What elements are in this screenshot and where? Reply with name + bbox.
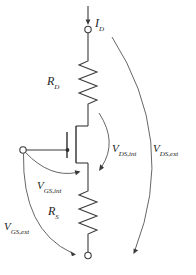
vds-external-symbol: V: [153, 142, 160, 154]
vgs-internal-arc: [26, 153, 81, 176]
vgs-internal-symbol: V: [37, 179, 44, 191]
gate-terminal: [20, 147, 26, 153]
drain-current-arrow: [86, 6, 91, 25]
vgs-internal-label: VGS,int: [37, 176, 61, 195]
vds-external-subscript: DS,ext: [160, 150, 178, 158]
vds-internal-label: VDS,int: [112, 139, 136, 158]
source-terminal: [85, 252, 91, 258]
drain-current-subscript: D: [99, 25, 104, 33]
drain-resistor-subscript: D: [54, 83, 59, 91]
vds-internal-arc: [99, 113, 109, 171]
vgs-internal-subscript: GS,int: [44, 187, 62, 195]
vgs-external-subscript: GS,ext: [11, 228, 29, 236]
source-resistor-subscript: S: [55, 213, 59, 221]
mosfet-symbol: [26, 126, 88, 163]
vgs-external-label: VGS,ext: [4, 217, 29, 236]
circuit-diagram-canvas: ID RD RS VDS,int VDS,ext VGS,int VGS,ext: [0, 0, 196, 275]
vds-external-label: VDS,ext: [153, 139, 178, 158]
vgs-external-symbol: V: [4, 220, 11, 232]
drain-terminal: [85, 26, 91, 32]
drain-resistor-label: RD: [47, 72, 59, 91]
schematic-svg: [0, 0, 196, 275]
vds-internal-symbol: V: [112, 142, 119, 154]
source-resistor-label: RS: [48, 202, 59, 221]
drain-resistor-zigzag: [79, 57, 97, 112]
drain-current-label: ID: [95, 14, 104, 33]
source-resistor-zigzag: [79, 187, 97, 242]
vds-internal-subscript: DS,int: [119, 150, 137, 158]
